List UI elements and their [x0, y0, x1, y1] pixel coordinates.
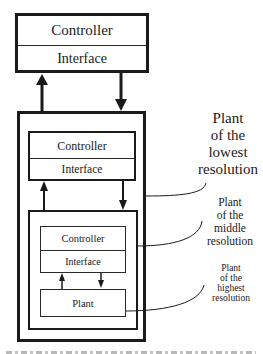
top-controller-interface-box: Controller Interface — [15, 13, 149, 73]
callout-middle-line: middle — [200, 222, 260, 235]
top-controller-label: Controller — [18, 16, 146, 45]
callout-curve-middle — [137, 221, 202, 246]
level2-interface-label: Interface — [41, 251, 125, 272]
level3-plant-label: Plant — [41, 290, 125, 316]
arrow-down-top-level — [115, 72, 127, 111]
callout-middle-line: Plant — [200, 196, 260, 209]
cropped-caption-remnant — [0, 347, 263, 354]
callout-lowest-line: lowest — [190, 144, 263, 161]
arrow-up-top-level — [36, 74, 48, 112]
callout-middle-resolution: Plant of the middle resolution — [200, 196, 260, 248]
callout-highest-resolution: Plant of the highest resolution — [205, 263, 257, 303]
callout-middle-line: resolution — [200, 235, 260, 248]
callout-highest-line: resolution — [205, 293, 257, 303]
callout-lowest-line: resolution — [190, 161, 263, 178]
callout-lowest-resolution: Plant of the lowest resolution — [190, 110, 263, 178]
callout-highest-line: of the — [205, 273, 257, 283]
callout-curve-lowest — [146, 183, 206, 196]
callout-highest-line: Plant — [205, 263, 257, 273]
level2-controller-label: Controller — [41, 227, 125, 250]
callout-lowest-line: Plant — [190, 110, 263, 127]
level1-interface-label: Interface — [30, 159, 134, 179]
level1-controller-interface-box: Controller Interface — [28, 131, 136, 181]
level2-controller-interface-box: Controller Interface — [40, 226, 126, 273]
plant-highest-resolution-box: Plant — [40, 289, 126, 317]
callout-lowest-line: of the — [190, 127, 263, 144]
callout-middle-line: of the — [200, 209, 260, 222]
level1-controller-label: Controller — [30, 133, 134, 159]
callout-highest-line: highest — [205, 283, 257, 293]
top-interface-label: Interface — [18, 46, 146, 71]
